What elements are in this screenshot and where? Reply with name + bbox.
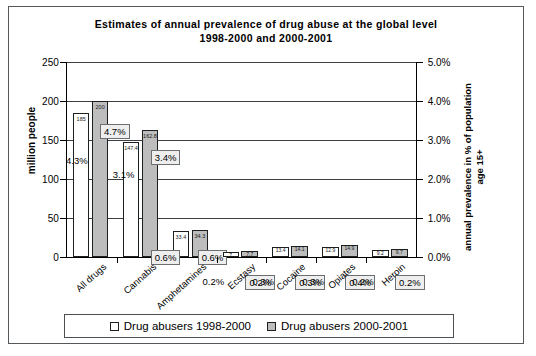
y-tick-label-left: 50 (48, 213, 62, 224)
y-tick-label-right: 0.0% (425, 252, 451, 263)
y-tick-right (416, 101, 423, 102)
legend-label-series2: Drug abusers 2000-2001 (281, 320, 408, 332)
bar-group: 9.20.2%9.70.2% (366, 62, 416, 257)
y-tick-right (416, 62, 423, 63)
bar-value-label: 162.8 (143, 133, 157, 140)
y-tick-right (416, 140, 423, 141)
bar-group: 13.40.3%14.10.3% (266, 62, 316, 257)
bar-value-label: 14.9 (342, 245, 356, 252)
bar-value-label: 200 (93, 104, 107, 111)
bar-value-label: 34.3 (193, 233, 207, 240)
legend-swatch-series1 (110, 322, 119, 331)
y-tick-right (416, 218, 423, 219)
legend-label-series1: Drug abusers 1998-2000 (124, 320, 251, 332)
bar-value-label: 185 (74, 116, 88, 123)
y-tick-label-right: 2.0% (425, 174, 451, 185)
bar-value-label: 147.4 (124, 145, 138, 152)
bar-value-label: 14.1 (292, 246, 306, 253)
legend-item: Drug abusers 1998-2000 (110, 320, 251, 332)
bar-group: 12.90.3%14.90.4% (316, 62, 366, 257)
y-tick-label-right: 5.0% (425, 57, 451, 68)
chart-title-line1: Estimates of annual prevalence of drug a… (95, 18, 438, 30)
y-axis-label-left: million people (26, 71, 37, 211)
y-tick-label-left: 200 (42, 96, 62, 107)
chart-title: Estimates of annual prevalence of drug a… (9, 17, 523, 45)
legend-item: Drug abusers 2000-2001 (267, 320, 408, 332)
x-axis-labels: All drugsCannabisAmphetaminesEcstasyCoca… (66, 261, 417, 311)
y-tick-label-left: 250 (42, 57, 62, 68)
bar-group: 147.43.1%162.83.4% (117, 62, 167, 257)
y-tick-label-right: 4.0% (425, 96, 451, 107)
y-tick-label-left: 100 (42, 174, 62, 185)
y-tick-label-right: 3.0% (425, 135, 451, 146)
chart-legend: Drug abusers 1998-2000 Drug abusers 2000… (64, 314, 454, 338)
y-tick-right (416, 179, 423, 180)
legend-swatch-series2 (267, 322, 276, 331)
y-tick-label-left: 150 (42, 135, 62, 146)
chart-title-line2: 1998-2000 and 2000-2001 (9, 31, 523, 45)
bar-group: 1854.3%2004.7% (67, 62, 117, 257)
y-axis-label-right-text: annual prevalence in % of population age… (462, 77, 486, 257)
y-tick-label-left: 0 (53, 252, 62, 263)
percent-callout-label: 4.3% (64, 154, 90, 167)
bar[interactable]: 185 (73, 113, 89, 257)
percent-callout-label: 3.1% (111, 168, 137, 181)
bar-group: 33.40.6%34.30.6% (167, 62, 217, 257)
y-tick-label-right: 1.0% (425, 213, 451, 224)
chart-frame: Estimates of annual prevalence of drug a… (8, 6, 524, 344)
